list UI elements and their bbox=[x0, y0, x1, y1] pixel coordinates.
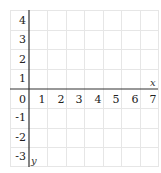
y-tick-label: 3 bbox=[8, 34, 26, 45]
y-axis-label: y bbox=[31, 155, 37, 166]
origin-label: 0 bbox=[8, 94, 26, 105]
x-tick-label: 3 bbox=[73, 94, 85, 105]
x-axis-label: x bbox=[150, 77, 156, 88]
y-tick-label: -1 bbox=[8, 112, 26, 123]
y-tick-label: -2 bbox=[8, 132, 26, 143]
x-tick-label: 1 bbox=[36, 94, 48, 105]
y-tick-label: -3 bbox=[8, 151, 26, 162]
y-tick-label: 2 bbox=[8, 54, 26, 65]
y-tick-label: 4 bbox=[8, 15, 26, 26]
x-tick-label: 5 bbox=[110, 94, 122, 105]
x-tick-label: 6 bbox=[129, 94, 141, 105]
x-tick-label: 4 bbox=[92, 94, 104, 105]
x-tick-label: 2 bbox=[55, 94, 67, 105]
y-tick-label: 1 bbox=[8, 73, 26, 84]
x-tick-label: 7 bbox=[147, 94, 159, 105]
